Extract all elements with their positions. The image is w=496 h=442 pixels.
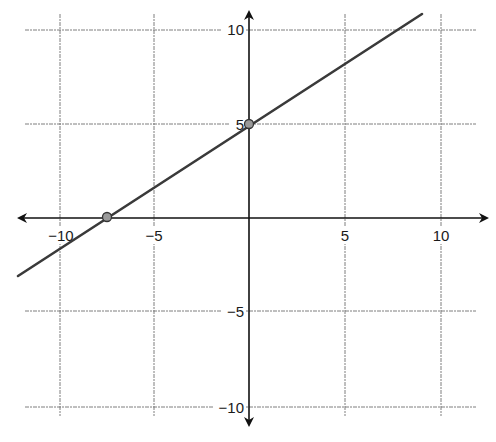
coordinate-plane: −10 −5 5 10 10 5 −5 −10 <box>0 0 496 442</box>
y-intercept-point <box>245 120 254 129</box>
y-tick-label: 10 <box>227 21 244 38</box>
y-tick-label: −5 <box>227 303 244 320</box>
x-tick-label: 10 <box>433 227 450 244</box>
x-intercept-point <box>103 213 112 222</box>
x-tick-label: −5 <box>145 227 162 244</box>
gridlines <box>25 14 476 416</box>
x-tick-label: 5 <box>341 227 349 244</box>
y-tick-label: −10 <box>219 399 244 416</box>
axes <box>19 12 487 425</box>
data-line <box>18 14 422 276</box>
